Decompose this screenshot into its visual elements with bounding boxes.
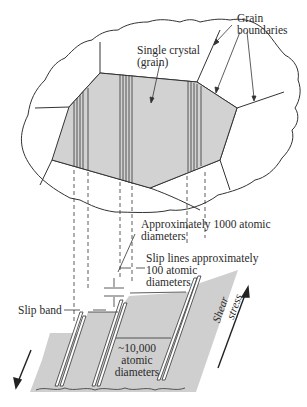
grain-boundaries-line1: Grain: [237, 12, 287, 24]
approx-1000-line1: Approximately 1000 atomic: [141, 218, 271, 230]
approx-10000-line1: ~10,000: [109, 342, 165, 354]
approx-1000-line2: diameters: [141, 230, 271, 242]
label-slip-band: Slip band: [18, 304, 62, 316]
label-approx-1000: Approximately 1000 atomic diameters: [141, 218, 271, 242]
approx-10000-line2: atomic: [109, 354, 165, 366]
label-single-crystal: Single crystal (grain): [137, 44, 200, 68]
label-slip-lines: Slip lines approximately 100 atomic diam…: [146, 252, 258, 288]
label-grain-boundaries: Grain boundaries: [237, 12, 287, 36]
single-crystal-line2: (grain): [137, 56, 200, 68]
approx-10000-line3: diameters: [109, 366, 165, 378]
slip-band-text: Slip band: [18, 304, 62, 316]
slip-lines-line1: Slip lines approximately: [146, 252, 258, 264]
arrow-down-head: [14, 378, 21, 388]
slip-lines-line3: diameters: [146, 276, 258, 288]
slip-lines-line2: 100 atomic: [146, 264, 258, 276]
grain-boundaries-line2: boundaries: [237, 24, 287, 36]
label-approx-10000: ~10,000 atomic diameters: [109, 342, 165, 378]
single-crystal-line1: Single crystal: [137, 44, 200, 56]
